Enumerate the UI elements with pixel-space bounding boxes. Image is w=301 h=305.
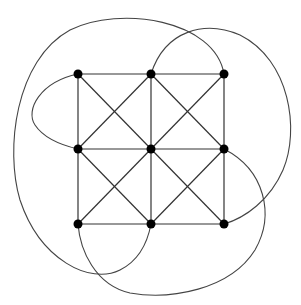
curved-edge-n00-n10 xyxy=(32,74,78,149)
curved-edge-n12-n20 xyxy=(78,149,265,295)
node-n21 xyxy=(147,220,156,229)
node-n11 xyxy=(147,145,156,154)
node-n10 xyxy=(74,145,83,154)
curved-edge-n02-n21 xyxy=(14,18,224,274)
node-n20 xyxy=(74,220,83,229)
node-n22 xyxy=(220,220,229,229)
node-n00 xyxy=(74,70,83,79)
node-n01 xyxy=(147,70,156,79)
node-n02 xyxy=(220,70,229,79)
node-n12 xyxy=(220,145,229,154)
graph-diagram xyxy=(0,0,301,305)
curved-edge-n01-n22 xyxy=(151,28,291,224)
curved-edges xyxy=(14,18,291,295)
